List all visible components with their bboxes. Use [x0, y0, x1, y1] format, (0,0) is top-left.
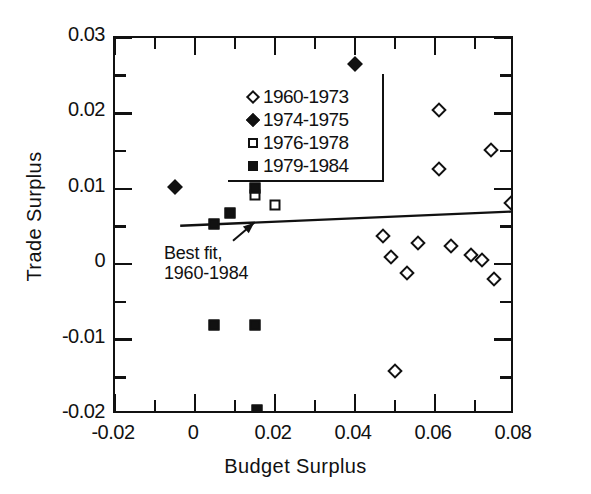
chart-legend: 1960-19731974-19751976-19781979-1984	[228, 74, 384, 182]
x-tick-label: 0.08	[463, 421, 563, 444]
legend-marker-diamond-open-icon	[245, 89, 261, 105]
best-fit-label-line1: Best fit,	[164, 243, 248, 263]
data-point-square-filled	[250, 320, 261, 331]
data-point-square-filled	[252, 404, 263, 411]
x-axis-title: Budget Surplus	[0, 455, 591, 478]
legend-item-label: 1974-1975	[263, 109, 348, 131]
data-point-square-filled	[209, 219, 220, 230]
y-tick-label: 0	[5, 249, 105, 272]
legend-marker-square-filled-icon	[245, 158, 261, 174]
data-point-square-filled	[209, 320, 220, 331]
y-tick-label: -0.01	[5, 325, 105, 348]
y-axis-title: Trade Surplus	[23, 87, 46, 347]
data-point-square-open	[270, 200, 281, 211]
legend-marker-diamond-filled-icon	[245, 112, 261, 128]
data-point-square-filled	[225, 207, 236, 218]
legend-item-1960-1973: 1960-1973	[245, 86, 348, 108]
legend-item-label: 1976-1978	[263, 132, 348, 154]
legend-item-label: 1979-1984	[263, 155, 348, 177]
y-tick-label: 0.03	[5, 23, 105, 46]
legend-item-1979-1984: 1979-1984	[245, 155, 348, 177]
scatter-chart-figure: Trade Surplus Budget Surplus 0.030.020.0…	[0, 0, 591, 494]
legend-marker-square-open-icon	[245, 135, 261, 151]
legend-item-1974-1975: 1974-1975	[245, 109, 348, 131]
plot-frame: Best fit, 1960-1984 1960-19731974-197519…	[113, 36, 513, 413]
best-fit-annotation: Best fit, 1960-1984	[164, 243, 248, 283]
best-fit-label-line2: 1960-1984	[164, 263, 248, 283]
y-tick-label: 0.02	[5, 98, 105, 121]
legend-marker-shape	[246, 90, 260, 104]
legend-marker-shape	[246, 113, 260, 127]
y-tick-label: 0.01	[5, 174, 105, 197]
legend-item-1976-1978: 1976-1978	[245, 132, 348, 154]
y-tick-label: -0.02	[5, 400, 105, 423]
legend-marker-shape	[248, 138, 258, 148]
legend-marker-shape	[248, 161, 258, 171]
data-point-square-filled	[250, 183, 261, 194]
legend-item-label: 1960-1973	[263, 86, 348, 108]
